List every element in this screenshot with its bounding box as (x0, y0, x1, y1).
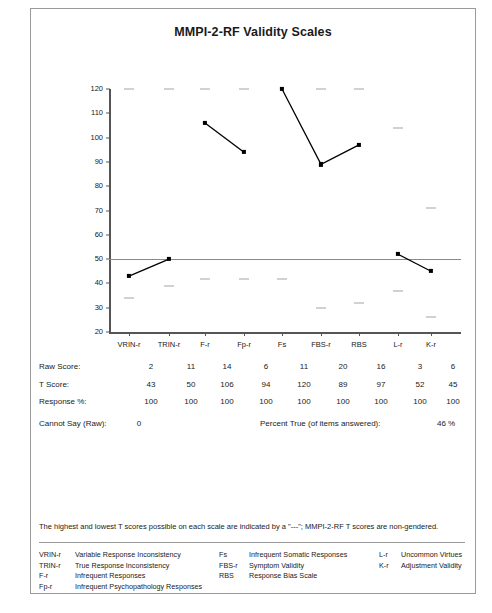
table-cell: 6 (451, 362, 455, 371)
y-axis-tick-label: 70 (95, 207, 103, 215)
data-point-fs (280, 87, 284, 91)
table-cell: 106 (220, 380, 233, 389)
cannot-say-label: Cannot Say (Raw): (39, 419, 107, 428)
table-cell: 50 (187, 380, 196, 389)
data-point-rbs (357, 143, 361, 147)
y-axis-tick-label: 60 (95, 231, 103, 239)
legend-description: Adjustment Validity (401, 561, 462, 572)
legend-description: Infrequent Psychopathology Responses (75, 582, 202, 593)
table-cell: 100 (220, 397, 233, 406)
table-cell: 52 (416, 380, 425, 389)
summary-row: Cannot Say (Raw): 0 Percent True (of ite… (39, 419, 469, 435)
legend-description: Infrequent Responses (75, 571, 145, 582)
data-point-fbs-r (319, 162, 323, 166)
plot-area: 2030405060708090100110120 VRIN-rTRIN-rF-… (109, 81, 461, 339)
table-cell: 100 (336, 397, 349, 406)
table-cell: 100 (297, 397, 310, 406)
x-axis-tick-label-fp-r: Fp-r (237, 341, 251, 349)
legend-description: True Response Inconsistency (75, 561, 169, 572)
y-axis-tick-label: 30 (95, 304, 103, 312)
y-axis-tick-label: 50 (95, 255, 103, 263)
y-axis-tick-label: 90 (95, 158, 103, 166)
data-point-fp-r (242, 150, 246, 154)
x-axis-tick-label-l-r: L-r (393, 341, 402, 349)
y-axis-tick-label: 120 (90, 85, 103, 93)
table-row: Response %:100100100100100100100100100 (39, 397, 469, 415)
legend-description: Uncommon Virtues (401, 550, 462, 561)
table-cell: 14 (223, 362, 232, 371)
table-cell: 6 (264, 362, 268, 371)
table-cell: 100 (144, 397, 157, 406)
table-row: T Score:43501069412089975245 (39, 380, 469, 398)
table-cell: 100 (184, 397, 197, 406)
table-cell: 3 (418, 362, 422, 371)
data-point-trin-r (167, 257, 171, 261)
table-cell: 100 (446, 397, 459, 406)
table-row-label: T Score: (39, 380, 69, 389)
legend-description: Response Bias Scale (249, 571, 317, 582)
score-line-segment (282, 89, 359, 164)
table-cell: 89 (339, 380, 348, 389)
score-table: Raw Score:21114611201636T Score:43501069… (39, 362, 469, 415)
table-cell: 16 (377, 362, 386, 371)
legend-abbreviation: VRIN-r (39, 550, 61, 561)
legend-description: Infrequent Somatic Responses (249, 550, 347, 561)
table-row-label: Response %: (39, 397, 87, 406)
legend-abbreviation: K-r (379, 561, 389, 572)
table-cell: 120 (297, 380, 310, 389)
data-point-l-r (396, 252, 400, 256)
y-axis-tick-label: 40 (95, 280, 103, 288)
legend-abbreviation: Fs (219, 550, 227, 561)
percent-true-value: 46 % (437, 419, 455, 428)
table-row: Raw Score:21114611201636 (39, 362, 469, 380)
x-axis-tick-label-f-r: F-r (200, 341, 210, 349)
data-point-f-r (203, 121, 207, 125)
y-axis-tick-label: 80 (95, 182, 103, 190)
table-row-label: Raw Score: (39, 362, 80, 371)
table-cell: 100 (413, 397, 426, 406)
report-frame: MMPI-2-RF Validity Scales 20304050607080… (30, 8, 476, 594)
table-cell: 20 (339, 362, 348, 371)
x-axis-tick-label-fbs-r: FBS-r (311, 341, 331, 349)
table-cell: 100 (259, 397, 272, 406)
table-cell: 97 (377, 380, 386, 389)
x-axis-tick-label-vrin-r: VRIN-r (118, 341, 141, 349)
legend-description: Symptom Validity (249, 561, 304, 572)
table-cell: 100 (374, 397, 387, 406)
legend-abbreviation: FBS-r (219, 561, 238, 572)
score-line-segment (205, 123, 244, 152)
page-title: MMPI-2-RF Validity Scales (31, 25, 475, 39)
data-point-vrin-r (127, 274, 131, 278)
table-cell: 11 (300, 362, 308, 371)
y-axis-tick-label: 20 (95, 328, 103, 336)
y-axis-tick-label: 110 (91, 110, 103, 118)
x-axis-tick-label-fs: Fs (278, 341, 286, 349)
table-cell: 94 (262, 380, 271, 389)
legend-abbreviation: TRIN-r (39, 561, 61, 572)
legend-abbreviation: L-r (379, 550, 388, 561)
table-cell: 43 (147, 380, 156, 389)
x-axis-tick-label-rbs: RBS (351, 341, 366, 349)
legend-abbreviation: RBS (219, 571, 234, 582)
legend-abbreviation: Fp-r (39, 582, 52, 593)
data-point-k-r (429, 269, 433, 273)
x-axis-tick-label-k-r: K-r (426, 341, 436, 349)
table-cell: 11 (187, 362, 195, 371)
legend-divider (39, 542, 465, 543)
t-score-line (109, 81, 461, 339)
validity-scales-chart: 2030405060708090100110120 VRIN-rTRIN-rF-… (109, 81, 461, 339)
table-cell: 2 (149, 362, 153, 371)
score-line-segment (398, 254, 431, 271)
legend-description: Variable Response Inconsistency (75, 550, 181, 561)
x-axis-tick-label-trin-r: TRIN-r (158, 341, 181, 349)
y-axis-tick-label: 100 (90, 134, 103, 142)
footnote: The highest and lowest T scores possible… (39, 522, 465, 532)
percent-true-label: Percent True (of items answered): (260, 419, 381, 428)
legend-abbreviation: F-r (39, 571, 48, 582)
score-line-segment (129, 259, 169, 276)
cannot-say-value: 0 (137, 419, 141, 428)
table-cell: 45 (449, 380, 458, 389)
